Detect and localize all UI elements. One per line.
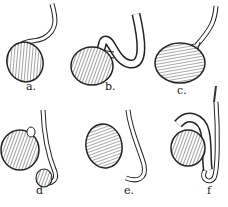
panel-f-drawing xyxy=(171,102,217,181)
panel-d-drawing xyxy=(1,110,56,187)
label-f: f xyxy=(207,184,211,197)
label-a: a. xyxy=(26,80,36,93)
panel-e-drawing xyxy=(82,110,144,180)
label-d: d xyxy=(36,184,43,197)
label-b: b. xyxy=(105,80,116,93)
panel-b-drawing xyxy=(71,14,141,85)
label-c: c. xyxy=(177,84,187,97)
label-e: e. xyxy=(124,184,134,197)
figure-illustration xyxy=(0,0,228,207)
panel-a-drawing xyxy=(2,4,55,86)
